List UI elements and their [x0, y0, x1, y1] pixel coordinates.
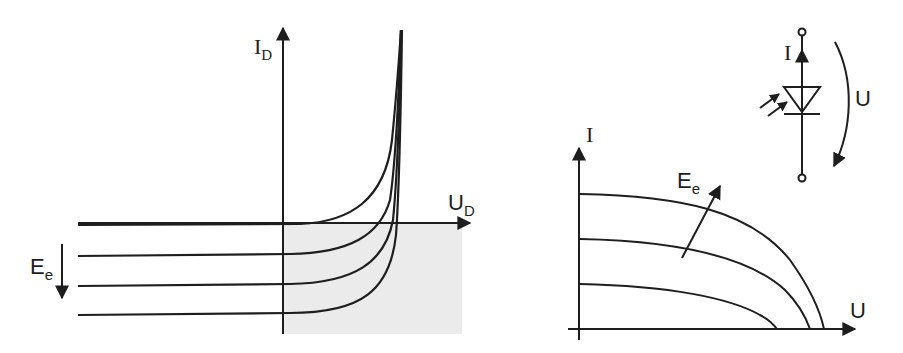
left-param-label: Ee [30, 256, 53, 278]
ee-arrow-right [682, 186, 720, 258]
light-arrow-1 [760, 94, 779, 108]
left-y-axis-label: ID [254, 36, 272, 58]
right-y-axis-label: I [586, 124, 593, 146]
circuit-current-label: I [784, 42, 791, 64]
terminal-bottom [799, 175, 806, 182]
curve-dark [78, 30, 401, 225]
diagram-canvas [0, 0, 903, 353]
terminal-top [799, 29, 806, 36]
right-x-axis-label: U [850, 300, 866, 322]
curve-ee3 [580, 194, 824, 329]
photodiode-symbol [760, 29, 849, 182]
circuit-voltage-label: U [855, 88, 871, 110]
voltage-arrow [834, 42, 849, 166]
right-chart [568, 148, 855, 340]
left-x-axis-label: UD [448, 192, 475, 214]
right-param-label: Ee [677, 170, 700, 192]
generator-region-shading [284, 224, 462, 334]
curve-ee1 [580, 284, 777, 329]
left-chart [62, 28, 470, 334]
curve-ee2 [580, 239, 810, 329]
